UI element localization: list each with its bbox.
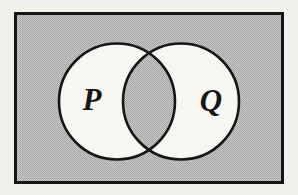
set-q-label: Q xyxy=(200,83,222,118)
venn-figure: P Q xyxy=(0,0,298,195)
venn-diagram-svg: P Q xyxy=(0,0,298,195)
set-p-label: P xyxy=(82,82,103,117)
